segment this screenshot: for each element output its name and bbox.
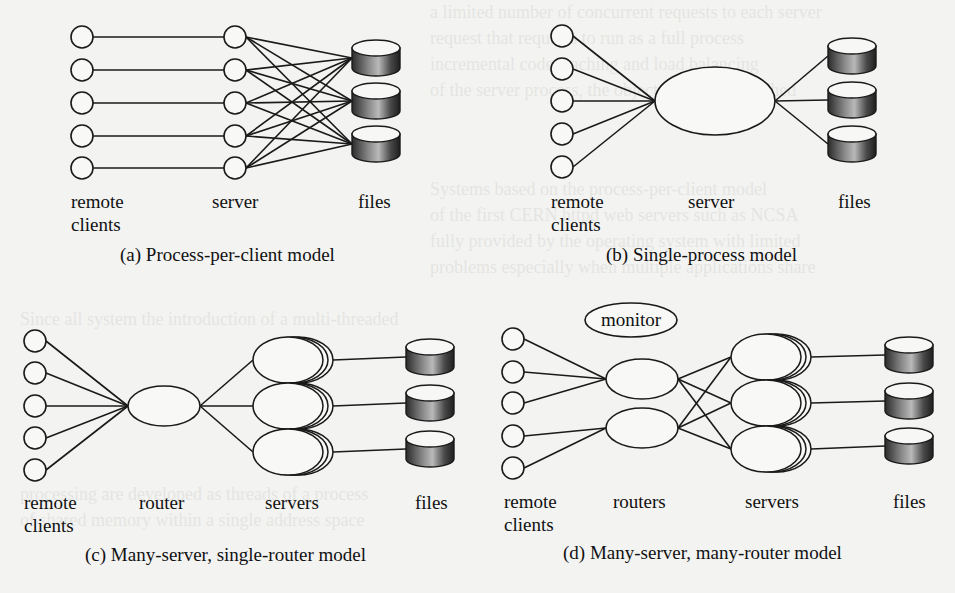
client-node [502, 328, 524, 350]
client-node [551, 58, 573, 80]
connection-line [573, 101, 655, 167]
client-node [71, 26, 93, 48]
server-process-node [224, 157, 246, 179]
server-stack-icon [253, 383, 333, 429]
panel-c-many-server-single-router [24, 330, 454, 481]
connection-line [46, 373, 128, 406]
client-node [71, 125, 93, 147]
label-monitor: monitor [601, 309, 662, 330]
connection-line [678, 379, 731, 403]
label-files-d: files [893, 491, 926, 512]
client-node [71, 92, 93, 114]
file-cylinder-icon [406, 339, 454, 375]
label-remote-clients-d: remote [504, 491, 557, 512]
connection-line [811, 401, 885, 403]
server-process-node [655, 67, 775, 135]
client-node [24, 330, 46, 352]
client-node [24, 459, 46, 481]
svg-text:of the first CERN httpd web se: of the first CERN httpd web servers such… [430, 205, 798, 225]
server-stack-icon [731, 380, 811, 426]
label-files-b: files [838, 191, 871, 212]
label-files-a: files [358, 191, 391, 212]
server-stack-icon [731, 426, 811, 472]
server-process-node [224, 125, 246, 147]
client-node [24, 395, 46, 417]
client-node [24, 362, 46, 384]
label-files-c: files [415, 492, 448, 513]
file-cylinder-icon [406, 385, 454, 421]
file-cylinder-icon [406, 431, 454, 467]
svg-text:Since all system the introduct: Since all system the introduction of a m… [20, 309, 398, 329]
client-node [551, 25, 573, 47]
connection-line [573, 101, 655, 134]
connection-line [775, 56, 828, 101]
label-server-a: server [212, 191, 259, 212]
caption-c: (c) Many-server, single-router model [85, 544, 366, 566]
client-node [502, 457, 524, 479]
server-stack-icon [731, 334, 811, 380]
connection-line [200, 360, 253, 406]
file-cylinder-icon [352, 83, 400, 119]
connection-line [811, 446, 885, 449]
server-stack-icon [253, 337, 333, 383]
router-node [128, 386, 200, 426]
svg-text:a limited number of concurrent: a limited number of concurrent requests … [430, 2, 822, 22]
connection-line [246, 101, 352, 103]
label-remote-clients-c: remote [24, 492, 77, 513]
connection-line [333, 357, 406, 360]
router-node [606, 359, 678, 399]
file-cylinder-icon [885, 428, 933, 464]
connection-line [46, 341, 128, 406]
caption-a: (a) Process-per-client model [120, 244, 335, 266]
connection-line [246, 144, 352, 168]
client-node [551, 90, 573, 112]
client-node [551, 156, 573, 178]
caption-b: (b) Single-process model [606, 244, 797, 266]
label-router-c: router [139, 492, 185, 513]
file-cylinder-icon [828, 38, 876, 74]
file-cylinder-icon [828, 126, 876, 162]
file-cylinder-icon [352, 40, 400, 76]
connection-line [246, 101, 352, 168]
connection-line [775, 101, 828, 144]
label-routers-d: routers [613, 491, 666, 512]
connection-line [811, 355, 885, 357]
server-stack-icon [253, 429, 333, 475]
connection-line [333, 449, 406, 452]
label-servers-c: servers [265, 492, 319, 513]
server-process-node [224, 59, 246, 81]
file-cylinder-icon [885, 383, 933, 419]
client-node [551, 123, 573, 145]
label-clients-c: clients [24, 515, 74, 536]
client-node [71, 59, 93, 81]
server-process-node [224, 26, 246, 48]
file-cylinder-icon [352, 126, 400, 162]
label-remote-clients-a: remote [71, 191, 124, 212]
server-process-node [224, 92, 246, 114]
client-node [502, 425, 524, 447]
connection-line [524, 379, 606, 403]
connection-line [46, 406, 128, 438]
client-node [24, 427, 46, 449]
label-server-b: server [688, 191, 735, 212]
router-node [606, 408, 678, 448]
connection-line [46, 406, 128, 470]
connection-line [333, 403, 406, 406]
file-cylinder-icon [885, 337, 933, 373]
label-servers-d: servers [745, 491, 799, 512]
client-node [502, 361, 524, 383]
label-remote-clients-b: remote [551, 191, 604, 212]
client-node [502, 392, 524, 414]
caption-d: (d) Many-server, many-router model [563, 542, 842, 564]
label-clients-a: clients [71, 214, 121, 235]
connection-line [678, 403, 731, 428]
connection-line [200, 406, 253, 452]
client-server-models-figure: a limited number of concurrent requests … [0, 0, 955, 593]
connection-line [775, 100, 828, 101]
panel-d-many-server-many-router: monitor [502, 303, 933, 479]
svg-text:request that requests to run a: request that requests to run as a full p… [430, 28, 744, 48]
label-clients-b: clients [551, 214, 601, 235]
client-node [71, 157, 93, 179]
file-cylinder-icon [828, 82, 876, 118]
label-clients-d: clients [504, 514, 554, 535]
